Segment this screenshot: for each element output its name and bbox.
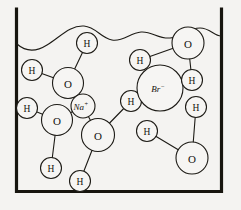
atom-circle bbox=[186, 97, 207, 118]
atom-oxygen: O bbox=[172, 27, 204, 59]
atom-hydrogen: H bbox=[17, 98, 38, 119]
atom-circle bbox=[137, 65, 183, 111]
atom-hydrogen: H bbox=[137, 121, 158, 142]
atom-circle bbox=[22, 60, 43, 81]
atom-circle bbox=[17, 98, 38, 119]
atom-circle bbox=[41, 158, 62, 179]
atom-oxygen: O bbox=[53, 68, 84, 99]
ion-bromide: Br− bbox=[137, 65, 183, 111]
atom-hydrogen: H bbox=[186, 97, 207, 118]
atom-circle bbox=[130, 50, 151, 71]
atom-circle bbox=[77, 33, 98, 54]
atom-hydrogen: H bbox=[77, 33, 98, 54]
atom-oxygen: O bbox=[176, 142, 208, 174]
atom-hydrogen: H bbox=[41, 158, 62, 179]
atom-circle bbox=[176, 142, 208, 174]
atom-oxygen: O bbox=[42, 105, 73, 136]
atom-circle bbox=[42, 105, 73, 136]
atom-hydrogen: H bbox=[182, 70, 203, 91]
atom-circle bbox=[82, 119, 115, 152]
atom-circle bbox=[172, 27, 204, 59]
diagram-canvas: H O H H O Na+ H bbox=[0, 0, 241, 210]
atom-circle bbox=[137, 121, 158, 142]
atom-hydrogen: H bbox=[22, 60, 43, 81]
atom-oxygen: O bbox=[82, 119, 115, 152]
ion-sodium: Na+ bbox=[71, 94, 95, 118]
atom-circle bbox=[182, 70, 203, 91]
atom-hydrogen: H bbox=[70, 171, 91, 192]
atom-circle bbox=[70, 171, 91, 192]
atom-circle bbox=[53, 68, 84, 99]
atom-hydrogen: H bbox=[130, 50, 151, 71]
solution-diagram: H O H H O Na+ H bbox=[0, 0, 241, 210]
atom-circle bbox=[71, 94, 95, 118]
